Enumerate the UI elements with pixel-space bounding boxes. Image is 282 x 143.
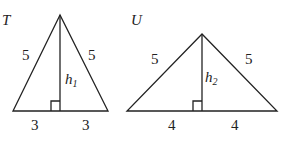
triangle-u-right-side-label: 5 <box>245 51 253 67</box>
triangle-t-name: T <box>2 12 12 28</box>
triangle-t-height-label: h1 <box>65 71 78 89</box>
triangle-u-name: U <box>131 12 143 28</box>
triangles-diagram: T 5 5 h1 3 3 U 5 5 h2 4 4 <box>0 0 282 143</box>
triangle-u: U 5 5 h2 4 4 <box>127 12 277 133</box>
triangle-u-height-label: h2 <box>205 69 218 87</box>
triangle-u-right-angle-marker <box>193 101 202 111</box>
triangle-t-base-left-label: 3 <box>31 117 39 133</box>
triangle-t-left-side-label: 5 <box>22 47 30 63</box>
triangle-t-right-side-label: 5 <box>88 47 96 63</box>
triangle-u-left-side-label: 5 <box>151 51 159 67</box>
triangle-u-base-right-label: 4 <box>231 117 239 133</box>
triangle-t-base-right-label: 3 <box>82 117 90 133</box>
triangle-t-right-angle-marker <box>51 101 60 111</box>
triangle-t: T 5 5 h1 3 3 <box>2 12 108 133</box>
triangle-u-base-left-label: 4 <box>168 117 176 133</box>
